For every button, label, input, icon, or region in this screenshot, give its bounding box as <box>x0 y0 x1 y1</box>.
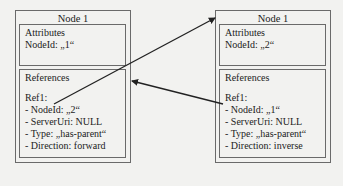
reference-arrows <box>0 0 343 186</box>
forward-arrow <box>54 18 215 104</box>
inverse-arrow <box>132 81 223 104</box>
